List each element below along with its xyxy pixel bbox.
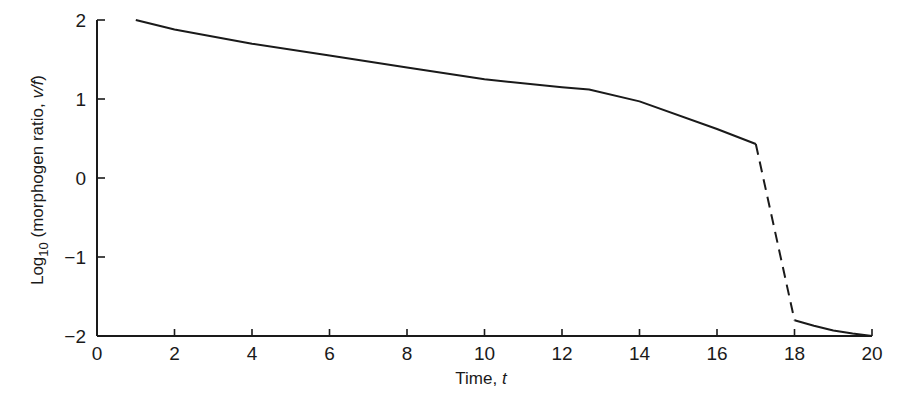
x-tick-label: 20 [861,343,882,364]
x-tick-label: 0 [92,343,103,364]
x-axis-label: Time, t [455,369,508,388]
series-solid-upper [136,20,756,144]
x-axis-ticks: 02468101214161820 [92,329,883,364]
axes [97,20,872,336]
y-axis-ticks: 210−1−2 [64,10,105,347]
x-tick-label: 4 [247,343,258,364]
y-tick-label: −1 [64,247,86,268]
y-axis-label: Log10 (morphogen ratio, v/f) [28,75,51,285]
chart: 02468101214161820 210−1−2 Time, t Log10 … [0,0,910,405]
data-series [136,20,872,336]
x-tick-label: 8 [402,343,413,364]
x-tick-label: 10 [474,343,495,364]
x-tick-label: 6 [324,343,335,364]
x-tick-label: 12 [551,343,572,364]
y-tick-label: −2 [64,326,86,347]
y-tick-label: 2 [75,10,86,31]
x-tick-label: 14 [629,343,651,364]
series-dashed-transition [756,144,795,320]
y-tick-label: 0 [75,168,86,189]
x-tick-label: 16 [706,343,727,364]
x-tick-label: 2 [169,343,180,364]
series-solid-lower [795,320,873,336]
x-tick-label: 18 [784,343,805,364]
y-tick-label: 1 [75,89,86,110]
